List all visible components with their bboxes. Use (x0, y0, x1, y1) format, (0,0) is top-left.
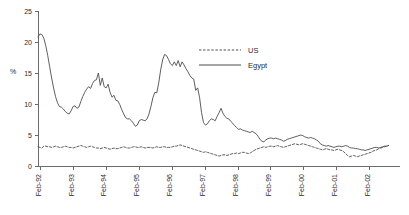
x-tick-label: Feb-00 (298, 174, 305, 196)
x-tick-label: Feb-98 (232, 174, 239, 196)
x-tick-label: Feb-94 (100, 174, 107, 196)
x-tick-label: Feb-01 (331, 174, 338, 196)
y-tick-label: 5 (28, 132, 32, 139)
chart-figure: 0510152025 % Feb-92Feb-93Feb-94Feb-95Feb… (0, 0, 409, 215)
series-group (38, 34, 388, 157)
x-axis-group: Feb-92Feb-93Feb-94Feb-95Feb-96Feb-97Feb-… (35, 166, 400, 196)
x-tick-group: Feb-92Feb-93Feb-94Feb-95Feb-96Feb-97Feb-… (35, 166, 371, 196)
y-tick-label: 10 (24, 101, 32, 108)
y-axis-title: % (10, 68, 16, 75)
legend-label-us: US (248, 46, 258, 55)
x-tick-label: Feb-99 (265, 174, 272, 196)
x-tick-label: Feb-97 (199, 174, 206, 196)
y-tick-label: 0 (28, 163, 32, 170)
y-tick-group: 0510152025 (24, 8, 38, 170)
y-tick-label: 20 (24, 39, 32, 46)
y-tick-label: 25 (24, 8, 32, 15)
x-tick-label: Feb-95 (133, 174, 140, 196)
x-tick-label: Feb-92 (35, 174, 42, 196)
y-axis-group: 0510152025 % (10, 8, 38, 170)
legend-label-egypt: Egypt (248, 61, 268, 70)
series-line-us (38, 144, 388, 157)
chart-legend: USEgypt (199, 46, 268, 70)
x-tick-label: Feb-02 (364, 174, 371, 196)
line-chart-svg: 0510152025 % Feb-92Feb-93Feb-94Feb-95Feb… (0, 0, 409, 215)
y-tick-label: 15 (24, 70, 32, 77)
cropped-title-fragment (150, 0, 400, 3)
x-tick-label: Feb-93 (68, 174, 75, 196)
series-line-egypt (38, 34, 388, 151)
x-tick-label: Feb-96 (166, 174, 173, 196)
